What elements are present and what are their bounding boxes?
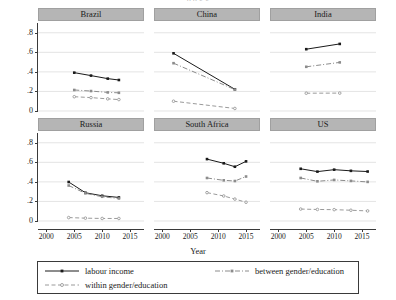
plot-area-russia xyxy=(38,133,144,221)
legend-item-between-gender-education: between gender/education xyxy=(214,264,344,278)
data-point-marker xyxy=(106,91,109,94)
data-point-marker xyxy=(316,180,319,183)
data-point-marker xyxy=(84,192,87,195)
data-point-marker xyxy=(118,92,121,95)
panel-row-top: Brazil China India xyxy=(0,8,396,119)
data-point-marker xyxy=(73,89,76,92)
data-point-marker xyxy=(245,201,248,204)
data-point-marker xyxy=(366,210,369,213)
plot-area-china xyxy=(154,23,260,111)
legend-label: labour income xyxy=(85,267,134,276)
x-axis-tick-label: 2010 xyxy=(327,233,342,241)
data-point-marker xyxy=(333,179,336,182)
panel-us: US xyxy=(270,118,376,229)
data-point-marker xyxy=(305,66,308,69)
panel-title-russia: Russia xyxy=(38,118,144,131)
data-point-marker xyxy=(206,177,209,180)
plot-area-us xyxy=(270,133,376,221)
legend-key-solid-icon xyxy=(44,265,80,277)
panel-title-text: US xyxy=(318,120,329,129)
series-line-within-gender-education xyxy=(207,193,246,203)
cut-off-figure-title: p p g g xyxy=(0,0,396,1)
x-axis-tick-label: 2010 xyxy=(211,233,226,241)
data-point-marker xyxy=(366,170,369,173)
panel-title-text: South Africa xyxy=(185,120,228,129)
panel-india: India xyxy=(270,8,376,119)
x-axis-tick-label: 2005 xyxy=(183,233,198,241)
data-point-marker xyxy=(106,77,109,80)
data-point-marker xyxy=(118,197,121,200)
data-point-marker xyxy=(101,217,104,220)
data-point-marker xyxy=(67,216,70,219)
data-point-marker xyxy=(333,168,336,171)
panel-title-text: India xyxy=(314,10,331,19)
data-point-marker xyxy=(366,181,369,184)
data-point-marker xyxy=(299,177,302,180)
legend-key-marker xyxy=(61,284,64,287)
data-point-marker xyxy=(338,43,341,46)
plot-area-india xyxy=(270,23,376,111)
panel-row-bottom: Russia South Africa US xyxy=(0,118,396,229)
x-axis-col-left: 2000200520102015 xyxy=(38,229,144,245)
x-axis-tick-label: 2015 xyxy=(239,233,254,241)
data-point-marker xyxy=(67,184,70,187)
panel-title-brazil: Brazil xyxy=(38,8,144,21)
series-line-within-gender-education xyxy=(174,101,235,108)
x-axis-tick-label: 2015 xyxy=(355,233,370,241)
x-axis-title: Year xyxy=(0,246,396,256)
data-point-marker xyxy=(338,61,341,64)
data-point-marker xyxy=(222,195,225,198)
series-line-within-gender-education xyxy=(74,97,119,100)
data-point-marker xyxy=(299,208,302,211)
x-axis-tick-label: 2000 xyxy=(271,233,286,241)
data-point-marker xyxy=(222,162,225,165)
small-multiples-figure: p p g g 0.2.4.6.8 0.2.4.6.8 Brazil xyxy=(0,0,396,300)
data-point-marker xyxy=(90,74,93,77)
data-point-marker xyxy=(234,88,237,91)
data-point-marker xyxy=(172,52,175,55)
panel-russia: Russia xyxy=(38,118,144,229)
x-axis-tick-label: 2005 xyxy=(67,233,82,241)
x-axis-tick-label: 2000 xyxy=(155,233,170,241)
legend-label: between gender/education xyxy=(255,267,344,276)
chart-legend: labour income between gender/education w… xyxy=(37,261,359,294)
data-point-marker xyxy=(245,175,248,178)
data-point-marker xyxy=(118,98,121,101)
data-point-marker xyxy=(234,180,237,183)
series-line-between-gender-education xyxy=(174,63,235,89)
data-point-marker xyxy=(316,170,319,173)
panel-title-text: Russia xyxy=(80,120,103,129)
data-point-marker xyxy=(350,170,353,173)
data-point-marker xyxy=(299,167,302,170)
legend-item-within-gender-education: within gender/education xyxy=(44,278,167,292)
data-point-marker xyxy=(350,180,353,183)
panel-brazil: Brazil xyxy=(38,8,144,119)
legend-label: within gender/education xyxy=(85,281,167,290)
panel-title-text: China xyxy=(197,10,217,19)
data-point-marker xyxy=(67,181,70,184)
data-point-marker xyxy=(118,79,121,82)
plot-area-brazil xyxy=(38,23,144,111)
legend-key-marker xyxy=(61,270,64,273)
legend-key-dashed-icon xyxy=(44,279,80,291)
data-point-marker xyxy=(90,90,93,93)
x-axis-tick-label: 2010 xyxy=(95,233,110,241)
legend-key-dash-dot-icon xyxy=(214,265,250,277)
data-point-marker xyxy=(333,208,336,211)
data-point-marker xyxy=(245,160,248,163)
panel-south-africa: South Africa xyxy=(154,118,260,229)
panel-title-india: India xyxy=(270,8,376,21)
data-point-marker xyxy=(234,107,237,110)
series-line-within-gender-education xyxy=(69,218,119,219)
panel-china: China xyxy=(154,8,260,119)
data-point-marker xyxy=(172,62,175,65)
x-axis-spine xyxy=(270,229,376,230)
x-axis-spine xyxy=(38,229,144,230)
series-line-labour-income xyxy=(306,44,339,49)
data-point-marker xyxy=(305,48,308,51)
series-line-labour-income xyxy=(207,159,246,167)
data-point-marker xyxy=(73,71,76,74)
x-axis-col-right: 2000200520102015 xyxy=(270,229,376,245)
data-point-marker xyxy=(350,209,353,212)
data-point-marker xyxy=(73,95,76,98)
